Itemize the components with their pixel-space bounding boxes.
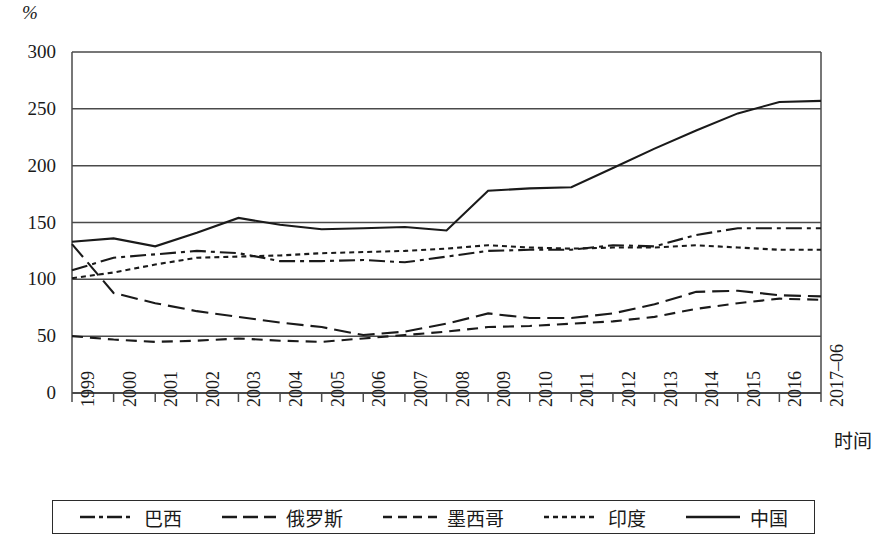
series-line-2 (72, 299, 821, 342)
x-axis-tick-label: 1999 (79, 371, 97, 407)
x-axis-tick-label: 2011 (578, 372, 596, 407)
series-line-4 (72, 101, 821, 246)
legend-line-swatch (221, 511, 277, 523)
legend-label: 印度 (608, 504, 646, 531)
legend-item-1[interactable]: 俄罗斯 (221, 504, 343, 531)
legend-line-swatch (79, 511, 135, 523)
x-axis-tick-label: 2009 (495, 371, 513, 407)
x-axis-tick-label: 2017–06 (828, 344, 846, 407)
legend-item-0[interactable]: 巴西 (79, 504, 182, 531)
legend-label: 俄罗斯 (286, 504, 343, 531)
legend-item-4[interactable]: 中国 (685, 504, 788, 531)
x-axis-tick-label: 2005 (329, 371, 347, 407)
series-line-3 (72, 245, 821, 278)
legend-item-2[interactable]: 墨西哥 (382, 504, 504, 531)
x-axis-tick-label: 2001 (162, 371, 180, 407)
x-axis-tick-label: 2014 (703, 371, 721, 407)
x-axis-tick-label: 2004 (287, 371, 305, 407)
series-line-1 (72, 244, 821, 335)
x-axis-tick-label: 2013 (662, 371, 680, 407)
x-axis-tick-label: 2003 (245, 371, 263, 407)
chart-legend: 巴西俄罗斯墨西哥印度中国 (52, 500, 815, 534)
x-axis-tick-label: 2000 (121, 371, 139, 407)
legend-line-swatch (382, 511, 438, 523)
legend-label: 中国 (750, 504, 788, 531)
x-axis-tick-label: 2002 (204, 371, 222, 407)
x-axis-tick-label: 2006 (370, 371, 388, 407)
x-axis-title: 时间 (834, 426, 872, 453)
x-axis-tick-label: 2016 (786, 371, 804, 407)
legend-line-swatch (543, 511, 599, 523)
x-axis-tick-label: 2010 (537, 371, 555, 407)
legend-label: 巴西 (144, 504, 182, 531)
legend-label: 墨西哥 (447, 504, 504, 531)
x-axis-tick-label: 2015 (745, 371, 763, 407)
x-axis-tick-label: 2008 (454, 371, 472, 407)
legend-item-3[interactable]: 印度 (543, 504, 646, 531)
series-line-0 (72, 228, 821, 270)
legend-line-swatch (685, 511, 741, 523)
x-axis-tick-label: 2012 (620, 371, 638, 407)
x-axis-tick-label: 2007 (412, 371, 430, 407)
